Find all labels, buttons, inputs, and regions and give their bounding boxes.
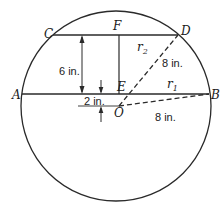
label-point-c: C bbox=[44, 27, 53, 41]
label-point-f: F bbox=[112, 19, 122, 33]
label-8in-ob: 8 in. bbox=[155, 111, 176, 123]
arrow-down-icon bbox=[99, 87, 104, 94]
label-2in: 2 in. bbox=[84, 95, 105, 107]
arrow-up-icon bbox=[99, 106, 104, 113]
label-r1: r1 bbox=[167, 77, 178, 93]
radius-ob-dashed bbox=[119, 94, 209, 106]
radius-od-dashed bbox=[119, 35, 178, 106]
label-8in-od: 8 in. bbox=[162, 57, 183, 69]
label-6in: 6 in. bbox=[59, 65, 80, 77]
label-point-b: B bbox=[210, 88, 220, 102]
label-point-d: D bbox=[180, 24, 191, 38]
label-r2: r2 bbox=[137, 40, 148, 56]
label-point-o: O bbox=[114, 106, 124, 120]
label-point-e: E bbox=[116, 80, 126, 94]
circle-chord-diagram: C F D A B E O r2 r1 6 in. 2 in. 8 in. 8 … bbox=[0, 0, 224, 210]
label-point-a: A bbox=[11, 88, 21, 102]
dimension-6in bbox=[80, 35, 85, 94]
arrow-up-icon bbox=[80, 35, 85, 43]
arrow-down-icon bbox=[80, 86, 85, 94]
